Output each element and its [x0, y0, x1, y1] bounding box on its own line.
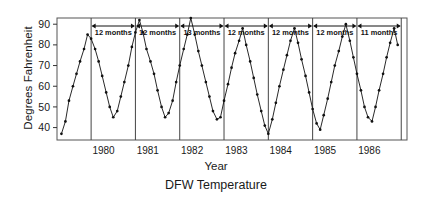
y-tick-label: 90 — [38, 18, 50, 30]
data-point — [171, 99, 174, 102]
data-point — [160, 106, 163, 109]
data-point — [105, 91, 108, 94]
x-tick-label: 1982 — [181, 145, 204, 156]
data-point — [396, 44, 399, 47]
data-point — [249, 60, 252, 63]
data-point — [382, 72, 385, 75]
data-point — [212, 110, 215, 113]
data-point — [282, 68, 285, 71]
data-point — [341, 35, 344, 38]
x-tick-label: 1986 — [358, 145, 381, 156]
y-tick-label: 40 — [38, 121, 50, 133]
data-point — [205, 81, 208, 84]
data-point — [389, 41, 392, 44]
data-point — [108, 106, 111, 109]
data-point — [182, 48, 185, 51]
data-point — [131, 46, 134, 49]
data-point — [363, 106, 366, 109]
data-point — [175, 81, 178, 84]
data-point — [356, 72, 359, 75]
data-point — [230, 66, 233, 69]
y-axis-ticks: 405060708090 — [38, 18, 57, 133]
data-point — [337, 50, 340, 53]
month-span-annotation: 12 months — [269, 23, 312, 36]
data-point — [308, 91, 311, 94]
data-point — [138, 19, 141, 22]
month-span-label: 13 months — [183, 28, 220, 37]
data-point — [378, 89, 381, 92]
data-point — [208, 95, 211, 98]
data-point — [311, 108, 314, 111]
data-point — [260, 110, 263, 113]
chart-figure: 4050607080901980198119821983198419851986… — [0, 0, 432, 201]
data-point — [322, 114, 325, 117]
data-point — [86, 33, 89, 36]
data-point — [256, 93, 259, 96]
month-span-label: 12 months — [228, 28, 265, 37]
data-point — [223, 99, 226, 102]
data-point — [300, 58, 303, 61]
data-point — [127, 64, 130, 67]
data-point — [83, 48, 86, 51]
month-span-annotation: 12 months — [313, 23, 356, 36]
data-point — [123, 81, 126, 84]
data-point — [119, 95, 122, 98]
data-point — [326, 97, 329, 100]
data-point — [352, 56, 355, 59]
data-point — [275, 101, 278, 104]
x-tick-label: 1985 — [314, 145, 337, 156]
data-point — [330, 81, 333, 84]
data-point — [241, 27, 244, 30]
data-point — [393, 27, 396, 30]
data-point — [349, 39, 352, 42]
data-point — [149, 60, 152, 63]
y-tick-label: 80 — [38, 38, 50, 50]
chart-caption: DFW Temperature — [0, 178, 432, 192]
data-point — [263, 124, 266, 127]
data-point — [201, 64, 204, 67]
data-point — [234, 52, 237, 55]
data-point — [304, 75, 307, 78]
data-point — [238, 39, 241, 42]
data-point — [156, 89, 159, 92]
data-point — [315, 122, 318, 125]
data-point — [286, 54, 289, 57]
data-point — [178, 64, 181, 67]
x-tick-label: 1983 — [225, 145, 248, 156]
data-point — [271, 118, 274, 121]
data-point — [267, 132, 270, 135]
data-point — [219, 116, 222, 119]
data-point — [216, 118, 219, 121]
data-point — [345, 23, 348, 26]
y-axis-label: Degrees Fahrenheit — [22, 3, 34, 153]
data-point — [293, 27, 296, 30]
month-span-annotation: 12 months — [225, 23, 268, 36]
data-point — [112, 116, 115, 119]
data-point — [245, 44, 248, 47]
data-point — [90, 37, 93, 40]
data-point — [153, 72, 156, 75]
data-point — [278, 85, 281, 88]
data-point — [374, 106, 377, 109]
data-point — [193, 33, 196, 36]
data-point — [75, 72, 78, 75]
data-point — [297, 41, 300, 44]
y-tick-label: 70 — [38, 59, 50, 71]
x-axis-label: Year — [0, 160, 432, 172]
data-point — [227, 83, 230, 86]
data-point — [97, 60, 100, 63]
data-point — [142, 31, 145, 34]
data-point — [145, 48, 148, 51]
data-point — [68, 99, 71, 102]
month-span-label: 12 months — [95, 28, 132, 37]
data-point — [60, 132, 63, 135]
data-point — [371, 120, 374, 123]
x-tick-label: 1984 — [270, 145, 293, 156]
data-point — [72, 85, 75, 88]
data-point — [252, 77, 255, 80]
data-point — [367, 116, 370, 119]
data-point — [197, 50, 200, 53]
data-point — [319, 128, 322, 131]
y-tick-label: 50 — [38, 101, 50, 113]
data-point — [64, 120, 67, 123]
